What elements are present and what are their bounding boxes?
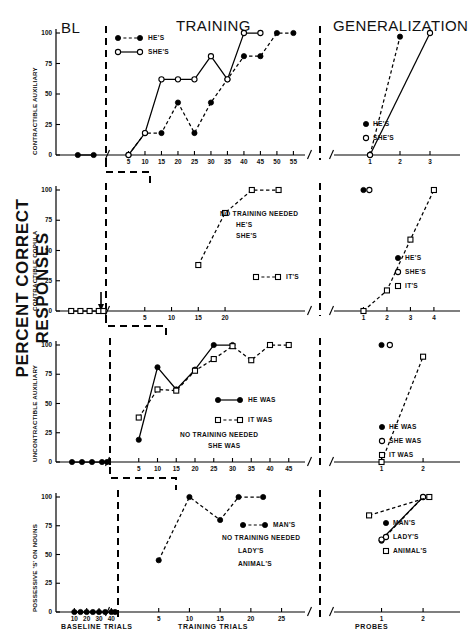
y-tick-label: 100 <box>36 341 52 348</box>
legend-gen-she-was: SHE WAS <box>389 437 422 444</box>
legend-item-it-was: IT WAS <box>248 416 273 423</box>
x-tick-label: 45 <box>253 158 267 165</box>
x-tick-label: 10 <box>151 465 165 472</box>
x-tick-label: 15 <box>191 314 205 321</box>
legend-gen-shes: SHE'S <box>373 134 394 141</box>
x-tick-label: 10 <box>165 314 179 321</box>
x-tick-label: 4 <box>427 314 441 321</box>
y-tick-label: 25 <box>36 579 52 586</box>
x-tick-label: 40 <box>237 158 251 165</box>
x-tick-label: 55 <box>286 158 300 165</box>
y-tick-label: 0 <box>36 458 52 465</box>
y-tick-label: 0 <box>36 608 52 615</box>
x-axis-name-baseline: BASELINE TRIALS <box>61 623 133 630</box>
annotation-no-training-needed-p3: NO TRAINING NEEDED <box>180 431 258 438</box>
x-tick-label: 35 <box>220 158 234 165</box>
x-tick-label: 10 <box>138 158 152 165</box>
x-tick-label: 1 <box>375 465 389 472</box>
y-tick-label: 50 <box>36 247 52 254</box>
x-tick-label: 5 <box>121 158 135 165</box>
x-tick-label: 2 <box>416 615 430 622</box>
x-tick-label: 20 <box>171 158 185 165</box>
legend-gen-it-was: IT WAS <box>389 451 414 458</box>
x-tick-label: 50 <box>270 158 284 165</box>
y-tick-label: 100 <box>36 29 52 36</box>
x-tick-label: 40 <box>263 465 277 472</box>
x-tick-label: 45 <box>282 465 296 472</box>
x-tick-label: 1 <box>375 615 389 622</box>
x-tick-label: 2 <box>393 158 407 165</box>
x-tick-label: 5 <box>152 615 166 622</box>
annotation-hes: HE'S <box>236 221 252 228</box>
legend-gen-hes: HE'S <box>373 120 389 127</box>
legend-gen-shes-p2: SHE'S <box>405 268 426 275</box>
legend-gen-hes-p2: HE'S <box>405 254 421 261</box>
annotation-animals: ANIMAL'S <box>238 560 272 567</box>
x-tick-label: 3 <box>423 158 437 165</box>
legend-item-he-was: HE WAS <box>248 396 276 403</box>
legend-gen-he-was: HE WAS <box>389 423 417 430</box>
x-tick-label: 25 <box>275 615 289 622</box>
x-tick-label: 15 <box>169 465 183 472</box>
y-tick-label: 75 <box>36 370 52 377</box>
panel-y-axis-label-3: UNCONTRACTIBLE AUXILIARY <box>31 365 38 462</box>
y-tick-label: 25 <box>36 121 52 128</box>
x-tick-label: 20 <box>218 314 232 321</box>
panel-y-axis-label-1: CONTRACTIBLE AUXILIARY <box>31 67 38 155</box>
x-tick-label: 30 <box>226 465 240 472</box>
x-axis-name-training: TRAINING TRIALS <box>178 623 248 630</box>
x-tick-label: 30 <box>204 158 218 165</box>
x-axis-name-probes: PROBES <box>355 623 388 630</box>
annotation-she-was: SHE WAS <box>208 442 241 449</box>
x-tick-label: 20 <box>244 615 258 622</box>
y-tick-label: 50 <box>36 90 52 97</box>
annotation-no-training-needed-p4: NO TRAINING NEEDED <box>222 534 300 541</box>
x-tick-label: 35 <box>244 465 258 472</box>
annotation-no-training-needed-p2: NO TRAINING NEEDED <box>220 210 298 217</box>
y-tick-label: 100 <box>36 493 52 500</box>
x-tick-label: 40 <box>104 615 118 622</box>
x-tick-label: 5 <box>138 314 152 321</box>
panel-y-axis-label-2: CONTRACTIBLE COPULA <box>31 231 38 311</box>
y-tick-label: 100 <box>36 186 52 193</box>
x-tick-label: 15 <box>213 615 227 622</box>
y-tick-label: 25 <box>36 429 52 436</box>
x-tick-label: 1 <box>356 314 370 321</box>
legend-item-mans: MAN'S <box>273 521 295 528</box>
x-tick-label: 1 <box>363 158 377 165</box>
x-tick-label: 10 <box>182 615 196 622</box>
y-tick-label: 0 <box>36 307 52 314</box>
y-tick-label: 0 <box>36 151 52 158</box>
annotation-shes: SHE'S <box>236 232 257 239</box>
y-tick-label: 25 <box>36 277 52 284</box>
y-tick-label: 75 <box>36 522 52 529</box>
annotation-ladys: LADY'S <box>238 547 264 554</box>
legend-gen-its-p2: IT'S <box>405 282 418 289</box>
x-tick-label: 25 <box>187 158 201 165</box>
y-tick-label: 75 <box>36 216 52 223</box>
x-tick-label: 2 <box>416 465 430 472</box>
y-tick-label: 50 <box>36 551 52 558</box>
x-tick-label: 20 <box>188 465 202 472</box>
legend-item-shes: SHE'S <box>148 48 169 55</box>
x-tick-label: 25 <box>207 465 221 472</box>
figure-root: PERCENT CORRECT RESPONSES BL TRAINING GE… <box>0 0 472 631</box>
legend-gen-ladys: LADY'S <box>393 533 419 540</box>
legend-item-its: IT'S <box>286 273 299 280</box>
x-tick-label: 3 <box>403 314 417 321</box>
x-tick-label: 5 <box>132 465 146 472</box>
y-tick-label: 50 <box>36 400 52 407</box>
x-tick-label: 2 <box>380 314 394 321</box>
y-tick-label: 75 <box>36 60 52 67</box>
x-tick-label: 15 <box>154 158 168 165</box>
legend-gen-mans: MAN'S <box>393 519 415 526</box>
panel-y-axis-label-4: POSSESSIVE 'S' ON NOUNS <box>31 524 38 612</box>
legend-gen-animals: ANIMAL'S <box>393 547 427 554</box>
legend-item-hes: HE'S <box>148 34 164 41</box>
